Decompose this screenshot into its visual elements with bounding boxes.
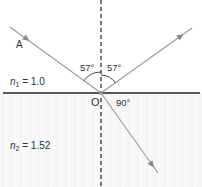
right-angle-label: 90°: [116, 98, 130, 108]
incident-angle-label: 57°: [80, 63, 94, 73]
ray-label-a: A: [16, 40, 23, 50]
n2-value: = 1.52: [22, 140, 50, 151]
n1-value: = 1.0: [22, 76, 45, 87]
medium-1-label: n1 = 1.0: [10, 77, 45, 88]
n1-subscript: 1: [16, 81, 20, 88]
ray-diagram: [0, 0, 202, 187]
point-o-label: O: [91, 97, 100, 108]
medium-2-label: n2 = 1.52: [10, 141, 50, 152]
point-o-marker: [99, 91, 103, 95]
reflected-arrow-icon: [176, 31, 185, 40]
n2-subscript: 2: [16, 145, 20, 152]
refracted-arrow-icon: [148, 160, 157, 169]
reflected-angle-arc: [101, 75, 116, 83]
incident-angle-arc: [84, 72, 101, 81]
diagram-canvas: A 57° 57° 90° O n1 = 1.0 n2 = 1.52: [0, 0, 202, 187]
reflected-angle-label: 57°: [107, 63, 121, 73]
